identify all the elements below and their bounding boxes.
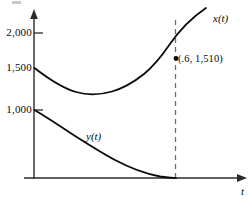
series-curve-y [35, 110, 177, 178]
chart-figure: 2,000 1,500 1,000 x(t) y(t) (.6, 1,510) … [0, 0, 251, 199]
x-axis [24, 174, 247, 182]
curve-label-y: y(t) [86, 130, 101, 142]
y-axis-arrowhead [30, 9, 38, 19]
x-axis-label-t: t [241, 185, 244, 197]
chart-plot-area [0, 0, 251, 199]
curve-label-x: x(t) [213, 12, 228, 24]
y-tick-label-2000: 2,000 [0, 26, 32, 38]
series-curve-x [35, 8, 207, 94]
x-axis-arrowhead [237, 174, 247, 182]
annotation-point-label: (.6, 1,510) [178, 53, 223, 64]
y-tick-label-1000: 1,000 [0, 103, 32, 115]
y-tick-label-1500: 1,500 [0, 61, 32, 73]
